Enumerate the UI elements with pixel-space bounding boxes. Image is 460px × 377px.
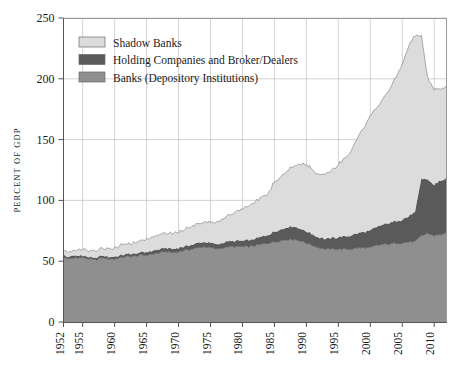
stacked-area-chart: 050100150200250 195219551960196519701975… bbox=[0, 0, 460, 377]
x-tick-label: 1995 bbox=[328, 332, 340, 355]
legend-label: Banks (Depository Institutions) bbox=[113, 72, 258, 85]
x-tick-label: 1980 bbox=[232, 332, 244, 355]
x-tick-label: 1952 bbox=[54, 332, 66, 355]
x-tick-label: 1955 bbox=[73, 332, 85, 355]
x-tick-label: 1960 bbox=[105, 332, 117, 355]
chart-figure: 050100150200250 195219551960196519701975… bbox=[0, 0, 460, 377]
legend-label: Holding Companies and Broker/Dealers bbox=[113, 54, 298, 67]
x-tick-label: 2005 bbox=[392, 332, 404, 355]
y-tick-label: 50 bbox=[43, 254, 55, 268]
y-tick-label: 100 bbox=[37, 193, 55, 207]
legend-label: Shadow Banks bbox=[113, 37, 182, 49]
x-tick-label: 2000 bbox=[360, 332, 372, 355]
x-tick-label: 1990 bbox=[296, 332, 308, 355]
holding-companies-swatch bbox=[79, 55, 105, 65]
y-tick-label: 150 bbox=[37, 133, 55, 147]
y-tick-label: 200 bbox=[37, 72, 55, 86]
y-tick-label: 0 bbox=[49, 315, 55, 329]
banks-swatch bbox=[79, 72, 105, 82]
shadow-banks-swatch bbox=[79, 37, 105, 47]
x-tick-label: 1965 bbox=[137, 332, 149, 355]
x-tick-label: 1985 bbox=[264, 332, 276, 355]
x-tick-label: 2010 bbox=[424, 332, 436, 355]
y-axis-title: PERCENT OF GDP bbox=[12, 127, 22, 212]
y-tick-label: 250 bbox=[37, 11, 55, 25]
x-tick-label: 1970 bbox=[169, 332, 181, 355]
x-tick-label: 1975 bbox=[201, 332, 213, 355]
